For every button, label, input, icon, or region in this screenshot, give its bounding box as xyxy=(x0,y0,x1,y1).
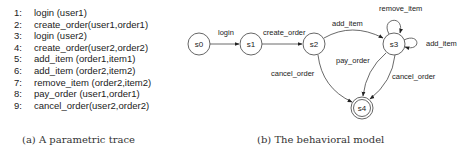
edge-label-pay-order: pay_order xyxy=(336,56,370,65)
state-label: s3 xyxy=(390,40,399,49)
behavioral-model-diagram: login create_order add_item remove_item … xyxy=(0,0,469,152)
state-s2: s2 xyxy=(303,33,325,55)
state-label: s2 xyxy=(310,40,319,49)
state-label: s1 xyxy=(247,40,256,49)
state-s0: s0 xyxy=(188,33,210,55)
edge-label-cancel-order-s3: cancel_order xyxy=(392,72,436,81)
edge-label-create-order: create_order xyxy=(263,28,306,37)
edge-s3-self-add-item xyxy=(404,38,417,48)
edge-s2-s3 xyxy=(324,30,383,38)
edge-s3-self-remove-item xyxy=(387,20,401,34)
edge-label-add-item-self: add_item xyxy=(426,39,457,48)
state-label: s4 xyxy=(358,104,367,113)
state-s3: s3 xyxy=(383,33,405,55)
edge-label-cancel-order-s2: cancel_order xyxy=(271,69,315,78)
edge-label-login: login xyxy=(218,28,234,37)
edge-label-remove-item: remove_item xyxy=(379,4,422,13)
state-label: s0 xyxy=(195,40,204,49)
state-s1: s1 xyxy=(240,33,262,55)
edge-label-add-item: add_item xyxy=(332,19,363,28)
state-s4-accepting: s4 xyxy=(351,97,373,119)
